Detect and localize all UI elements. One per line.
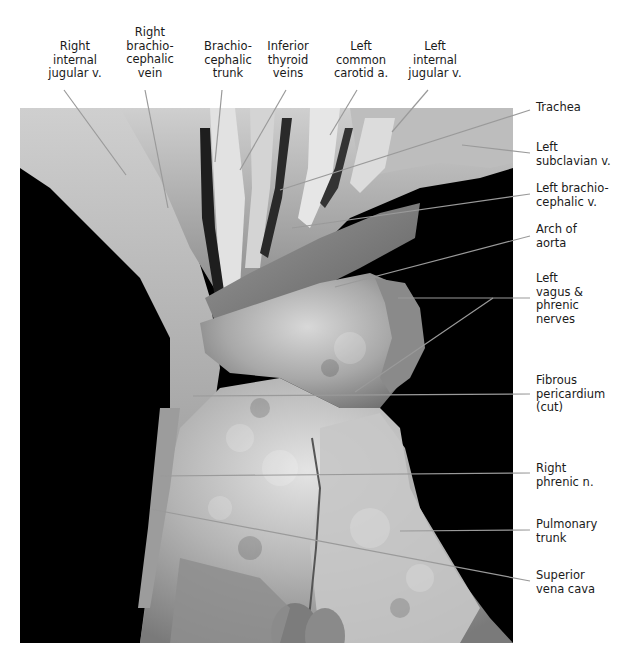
label-line: Left: [400, 40, 470, 54]
label-right-phrenic-nerve: Right phrenic n.: [536, 462, 594, 489]
label-line: Left brachio-: [536, 182, 609, 196]
label-line: veins: [256, 67, 320, 81]
label-right-brachiocephalic-vein: Right brachio- cephalic vein: [108, 26, 192, 80]
label-left-brachiocephalic-vein: Left brachio- cephalic v.: [536, 182, 609, 209]
label-line: Brachio-: [190, 40, 266, 54]
label-line: brachio-: [108, 40, 192, 54]
label-line: (cut): [536, 401, 605, 415]
label-line: carotid a.: [328, 67, 394, 81]
label-line: Superior: [536, 569, 595, 583]
label-line: aorta: [536, 237, 577, 251]
label-line: cephalic: [190, 54, 266, 68]
label-line: Right: [30, 40, 120, 54]
label-line: vena cava: [536, 583, 595, 597]
label-trachea: Trachea: [536, 101, 581, 115]
label-line: Inferior: [256, 40, 320, 54]
label-line: Fibrous: [536, 374, 605, 388]
label-arch-of-aorta: Arch of aorta: [536, 223, 577, 250]
label-left-common-carotid-artery: Left common carotid a.: [328, 40, 394, 81]
label-line: internal: [400, 54, 470, 68]
label-right-internal-jugular-vein: Right internal jugular v.: [30, 40, 120, 81]
label-line: Left: [536, 272, 583, 286]
label-pulmonary-trunk: Pulmonary trunk: [536, 518, 597, 545]
label-line: subclavian v.: [536, 155, 611, 169]
label-line: phrenic n.: [536, 476, 594, 490]
label-line: Right: [536, 462, 594, 476]
label-left-subclavian-vein: Left subclavian v.: [536, 141, 611, 168]
label-line: jugular v.: [30, 67, 120, 81]
label-line: trunk: [190, 67, 266, 81]
label-line: pericardium: [536, 388, 605, 402]
label-line: internal: [30, 54, 120, 68]
label-fibrous-pericardium: Fibrous pericardium (cut): [536, 374, 605, 415]
dissection-photograph: [20, 108, 513, 643]
label-inferior-thyroid-veins: Inferior thyroid veins: [256, 40, 320, 81]
label-line: cephalic: [108, 53, 192, 67]
label-brachiocephalic-trunk: Brachio- cephalic trunk: [190, 40, 266, 81]
label-line: cephalic v.: [536, 196, 609, 210]
label-line: Pulmonary: [536, 518, 597, 532]
label-line: common: [328, 54, 394, 68]
label-line: thyroid: [256, 54, 320, 68]
label-line: phrenic: [536, 299, 583, 313]
label-line: vagus &: [536, 286, 583, 300]
label-superior-vena-cava: Superior vena cava: [536, 569, 595, 596]
label-line: Left: [328, 40, 394, 54]
dissection-illustration: [20, 108, 513, 643]
label-line: Arch of: [536, 223, 577, 237]
label-line: Right: [108, 26, 192, 40]
label-left-vagus-phrenic-nerves: Left vagus & phrenic nerves: [536, 272, 583, 326]
label-line: vein: [108, 67, 192, 81]
label-line: jugular v.: [400, 67, 470, 81]
label-left-internal-jugular-vein: Left internal jugular v.: [400, 40, 470, 81]
label-line: nerves: [536, 313, 583, 327]
label-line: trunk: [536, 532, 597, 546]
label-line: Left: [536, 141, 611, 155]
label-line: Trachea: [536, 101, 581, 115]
